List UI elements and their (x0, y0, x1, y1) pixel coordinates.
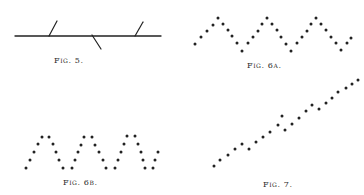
fig-5-diagram (15, 21, 161, 49)
fig-7-caption: Fig. 7. (263, 180, 293, 189)
dot (257, 30, 260, 33)
dot (325, 102, 328, 105)
dot (305, 110, 308, 113)
dot (48, 136, 51, 139)
dot (157, 151, 160, 154)
dot (315, 17, 318, 20)
dot (345, 87, 348, 90)
dot (152, 167, 155, 170)
dot (114, 167, 117, 170)
dot (262, 136, 265, 139)
dot (337, 91, 340, 94)
dot (217, 17, 220, 20)
dot (296, 42, 299, 45)
dot (102, 159, 105, 162)
dot (200, 36, 203, 39)
figure-plate: Fig. 5. Fig. 6a. Fig. 6b. Fig. 7. (0, 0, 364, 195)
dot (277, 124, 280, 127)
dot (29, 159, 32, 162)
dot (77, 151, 80, 154)
dot (318, 108, 321, 111)
dot (94, 144, 97, 147)
dot (222, 23, 225, 26)
dot (280, 36, 283, 39)
dot (320, 23, 323, 26)
dot (154, 159, 157, 162)
dot (80, 144, 83, 147)
dot (247, 42, 250, 45)
dot (55, 151, 58, 154)
dot (306, 30, 309, 33)
dot (281, 115, 284, 118)
dot (335, 42, 338, 45)
dot (41, 136, 44, 139)
dot (261, 23, 264, 26)
dot (241, 50, 244, 53)
dot (33, 151, 36, 154)
dot (105, 167, 108, 170)
dot (117, 159, 120, 162)
dot (213, 165, 216, 168)
dot (350, 37, 353, 40)
dot (25, 167, 28, 170)
fig-6b-dot-wave (25, 135, 160, 170)
dot (142, 159, 145, 162)
dot (194, 43, 197, 46)
dot (74, 159, 77, 162)
dot (98, 151, 101, 154)
dot (331, 97, 334, 100)
dot (227, 154, 230, 157)
dot (123, 143, 126, 146)
dot (212, 24, 215, 27)
fig-6a-dot-zigzag (194, 17, 353, 53)
dot (311, 104, 314, 107)
dot (330, 36, 333, 39)
dot (126, 135, 129, 138)
dot (219, 159, 222, 162)
dot (144, 167, 147, 170)
dot (37, 143, 40, 146)
dot (227, 29, 230, 32)
dot (291, 123, 294, 126)
dot (206, 30, 209, 33)
dot (52, 143, 55, 146)
dot (252, 36, 255, 39)
dot (62, 167, 65, 170)
dot (285, 43, 288, 46)
dot (298, 117, 301, 120)
dot (248, 148, 251, 151)
dot (231, 35, 234, 38)
slanted-tick (92, 35, 101, 49)
dot (284, 129, 287, 132)
dot (83, 136, 86, 139)
dot (241, 143, 244, 146)
dot (234, 148, 237, 151)
plate-drawing (0, 0, 364, 195)
dot (255, 141, 258, 144)
dot (266, 17, 269, 20)
fig-5-caption: Fig. 5. (54, 56, 84, 65)
slanted-tick (135, 22, 143, 36)
dot (325, 29, 328, 32)
fig-6b-caption: Fig. 6b. (63, 178, 98, 187)
dot (236, 42, 239, 45)
dot (269, 131, 272, 134)
dot (346, 42, 349, 45)
dot (71, 167, 74, 170)
dot (301, 36, 304, 39)
dot (340, 49, 343, 52)
fig-7-dot-scatter (213, 79, 360, 168)
dot (290, 50, 293, 53)
dot (137, 143, 140, 146)
fig-6a-caption: Fig. 6a. (247, 61, 282, 70)
dot (58, 159, 61, 162)
dot (351, 83, 354, 86)
dot (134, 135, 137, 138)
dot (271, 23, 274, 26)
dot (120, 151, 123, 154)
dot (310, 23, 313, 26)
dot (91, 136, 94, 139)
dot (140, 151, 143, 154)
dot (357, 79, 360, 82)
dot (276, 29, 279, 32)
